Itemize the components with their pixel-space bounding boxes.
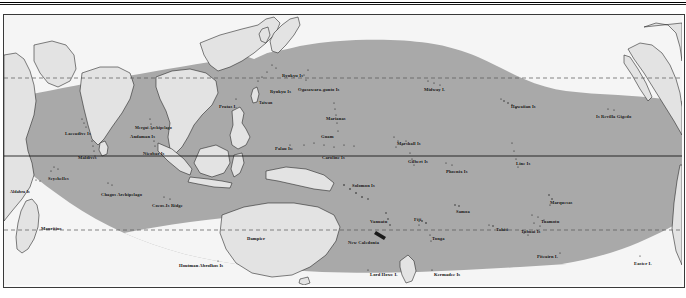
map-label-cocos-is-ridge: Cocos-Is Ridge [152,203,183,208]
map-label-gilbert-is: Gilbert Is [408,159,428,164]
map-label-taiwan: Taiwan [259,100,272,105]
map-label-mergui-archipelago: Mergui Archipelago [135,125,172,130]
map-label-lord-howe-i: Lord Howe I. [370,272,398,277]
map-label-tuamotu: Tuamotu [541,219,559,224]
top-rule-upper [0,2,686,3]
map-label-nicobar-is: Nicobar Is [143,151,164,156]
map-label-tonga: Tonga [432,236,445,241]
map-label-ogasawara-gunto-is: Ogasawara-gunto Is [298,87,340,92]
map-label-chagos-archipelago: Chagos Archipelago [101,192,142,197]
map-label-tahiti: Tahiti [496,227,508,232]
map-label-marshall-is: Marshall Is [397,141,421,146]
map-label-dampier: Dampier [247,236,265,241]
top-rule-lower [0,4,686,5]
map-label-tubuai-is: Tubuai Is [521,229,541,234]
map-label-aldabra-is: Aldabra Is [10,189,30,194]
map-label-houtman-abrolhos-is: Houtman Abrolhos Is [179,263,223,268]
map-label-line-is: Line Is [516,161,530,166]
map-label-pitcairn-i: Pitcairn I. [537,254,558,259]
map-label-pratas-i: Pratas I. [219,104,237,109]
land-borneo [194,145,230,177]
map-label-caroline-is: Caroline Is [322,155,345,160]
map-label-is-revilla-gigedo: Is Revilla Gigedo [596,114,631,119]
map-label-laccadive-is: Laccadive Is [65,131,91,136]
map-label-guam: Guam [321,134,334,139]
map-label-palau-is: Palau Is [275,146,292,151]
map-label-new-caledonia: New Caledonia [348,240,379,245]
map-label-solomon-is: Solomon Is [352,183,375,188]
map-label-andaman-is: Andaman Is [130,134,155,139]
map-label-mauritius: Mauritius [41,226,62,231]
map-canvas [4,15,682,285]
map-label-samoa: Samoa [456,209,470,214]
map-plate: SeychellesAldabra IsChagos ArchipelagoCo… [3,14,685,288]
map-label-maldives: Maldives [78,155,97,160]
map-label-vanuatu: Vanuatu [370,219,387,224]
map-figure: SeychellesAldabra IsChagos ArchipelagoCo… [0,0,686,298]
map-label-marianas: Marianas [326,116,346,121]
map-label-hawaiian-is: Hawaiian Is [511,104,536,109]
map-label-ryukyu-is-south: Ryukyu Is [270,89,291,94]
map-label-seychelles: Seychelles [48,176,69,181]
map-label-easter-i: Easter I. [634,261,652,266]
map-label-midway-i: Midway I. [424,87,445,92]
map-label-fiji: Fiji [414,217,421,222]
map-label-marquesas: Marquesas [550,200,573,205]
map-label-kermadec-is: Kermadec Is [434,272,460,277]
map-label-ryukyu-is-north: Ryukyu Is [282,73,303,78]
map-label-phoenix-is: Phoenix Is [446,169,468,174]
